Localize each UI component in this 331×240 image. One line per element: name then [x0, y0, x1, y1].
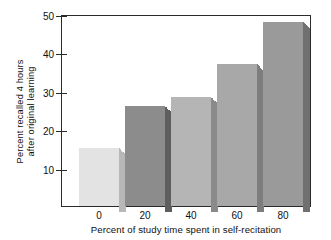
y-axis-tick-label: 30 — [43, 87, 54, 98]
x-axis-tick-label: 80 — [277, 210, 288, 221]
bar — [171, 97, 211, 206]
y-axis-title-line2: after original learning — [26, 59, 37, 163]
x-axis-tick-label: 20 — [139, 210, 150, 221]
bar-front-face — [263, 22, 303, 206]
bar — [217, 64, 257, 206]
y-axis-tick-inner — [62, 131, 67, 132]
y-axis-tick-inner — [62, 170, 67, 171]
y-axis-tick-label: 40 — [43, 49, 54, 60]
bar — [263, 22, 303, 206]
y-axis-title: Percent recalled 4 hours after original … — [10, 15, 42, 207]
y-axis-tick-inner — [62, 16, 67, 17]
y-axis-tick-label: 10 — [43, 164, 54, 175]
y-axis-tick-label: 50 — [43, 11, 54, 22]
bar-front-face — [171, 97, 211, 206]
bar-front-face — [217, 64, 257, 206]
bar-front-face — [125, 106, 165, 206]
y-axis-title-line1: Percent recalled 4 hours — [15, 59, 26, 163]
bar — [125, 106, 165, 206]
y-axis-tick-inner — [62, 93, 67, 94]
x-axis-tick-label: 40 — [185, 210, 196, 221]
x-axis-tick-label: 60 — [231, 210, 242, 221]
bar — [79, 148, 119, 206]
bar-front-face — [79, 148, 119, 206]
x-axis-title: Percent of study time spent in self-reci… — [61, 224, 311, 235]
plot-area: 1020304050020406080 — [61, 15, 311, 207]
y-axis-tick-inner — [62, 54, 67, 55]
plot-inner: 1020304050020406080 — [62, 16, 310, 206]
bar-top-bevel — [303, 22, 310, 29]
y-axis-tick-label: 20 — [43, 126, 54, 137]
y-axis-title-text: Percent recalled 4 hours after original … — [15, 59, 38, 163]
bar-chart-figure: Percent recalled 4 hours after original … — [0, 0, 331, 240]
x-axis-tick-label: 0 — [96, 210, 102, 221]
bar-side-face — [303, 29, 310, 212]
